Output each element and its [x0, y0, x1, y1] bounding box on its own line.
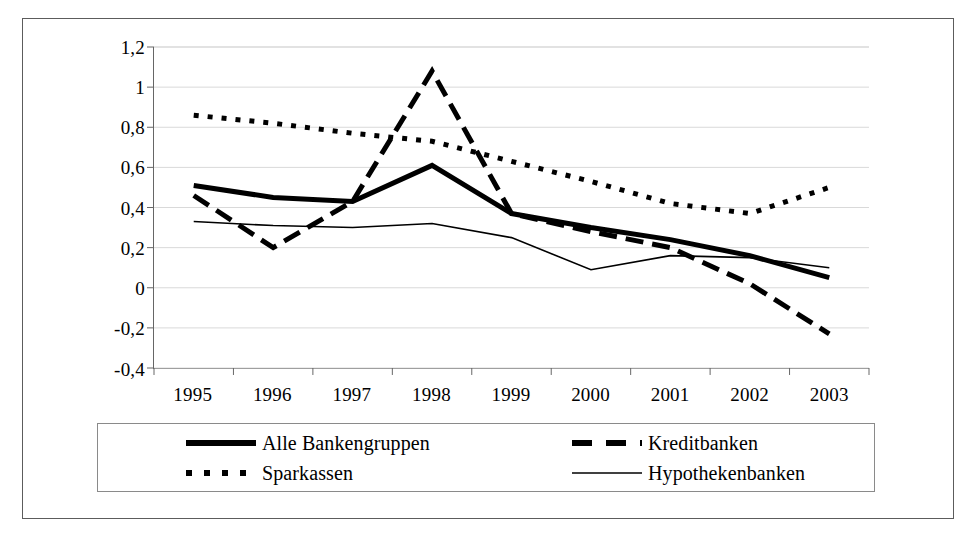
y-tick-label: 1,2 — [121, 38, 145, 57]
x-axis-tick-labels: 199519961997199819992000200120022003 — [153, 381, 869, 407]
chart-legend: Alle Bankengruppen Kreditbanken Sparkass… — [97, 423, 875, 492]
x-tick-label: 1997 — [332, 385, 371, 404]
legend-label-hypothekenbanken: Hypothekenbanken — [648, 463, 805, 483]
legend-label-sparkassen: Sparkassen — [262, 463, 353, 483]
series-line-alle-bankengruppen — [194, 165, 830, 277]
legend-swatch-hypothekenbanken — [570, 465, 644, 481]
series-line-kreditbanken — [194, 71, 830, 334]
chart-area: 1,210,80,60,40,20-0,2-0,4 19951996199719… — [131, 29, 891, 409]
y-tick-label: 0 — [135, 279, 145, 298]
x-tick-label: 2002 — [730, 385, 769, 404]
x-tick-label: 1995 — [173, 385, 212, 404]
x-tick-label: 2000 — [571, 385, 610, 404]
legend-swatch-kreditbanken — [570, 435, 644, 451]
x-tick-label: 1999 — [492, 385, 531, 404]
y-tick-label: 0,8 — [121, 118, 145, 137]
x-tick-label: 1998 — [412, 385, 451, 404]
legend-item-kreditbanken[interactable]: Kreditbanken — [570, 429, 758, 457]
x-tick-label: 2003 — [810, 385, 849, 404]
y-tick-label: -0,2 — [114, 319, 145, 338]
legend-label-alle-bankengruppen: Alle Bankengruppen — [262, 433, 430, 453]
y-tick-label: 1 — [135, 78, 145, 97]
legend-item-alle-bankengruppen[interactable]: Alle Bankengruppen — [184, 429, 430, 457]
legend-item-hypothekenbanken[interactable]: Hypothekenbanken — [570, 459, 805, 487]
y-tick-label: 0,2 — [121, 239, 145, 258]
y-axis-tick-labels: 1,210,80,60,40,20-0,2-0,4 — [131, 47, 145, 369]
plot-area — [153, 47, 869, 369]
figure-frame: 1,210,80,60,40,20-0,2-0,4 19951996199719… — [22, 18, 954, 519]
y-tick-label: 0,6 — [121, 158, 145, 177]
series-lines — [154, 47, 869, 368]
legend-swatch-sparkassen — [184, 465, 258, 481]
legend-item-sparkassen[interactable]: Sparkassen — [184, 459, 353, 487]
y-tick-label: 0,4 — [121, 199, 145, 218]
y-tick-label: -0,4 — [114, 360, 145, 379]
series-line-hypothekenbanken — [194, 222, 830, 270]
x-tick-label: 2001 — [651, 385, 690, 404]
legend-swatch-alle-bankengruppen — [184, 435, 258, 451]
x-tick-label: 1996 — [253, 385, 292, 404]
legend-label-kreditbanken: Kreditbanken — [648, 433, 758, 453]
